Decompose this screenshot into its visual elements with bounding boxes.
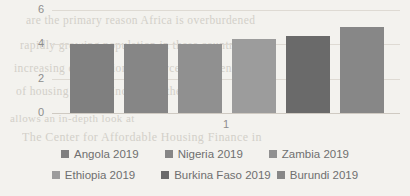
legend-label: Angola 2019 [74, 148, 139, 160]
bar-series-group [52, 10, 400, 113]
bar-chart: 0246 1 Angola 2019Nigeria 2019Zambia 201… [0, 0, 410, 196]
legend-label: Zambia 2019 [282, 148, 349, 160]
legend-item[interactable]: Nigeria 2019 [165, 148, 243, 160]
bar[interactable] [70, 44, 114, 113]
bar[interactable] [340, 27, 384, 113]
y-axis-tick-label: 2 [0, 72, 44, 84]
legend-label: Burundi 2019 [290, 169, 358, 181]
legend-item[interactable]: Ethiopia 2019 [52, 169, 135, 181]
chart-legend: Angola 2019Nigeria 2019Zambia 2019 Ethio… [0, 148, 410, 181]
y-axis-tick-label: 6 [0, 3, 44, 15]
legend-label: Ethiopia 2019 [65, 169, 135, 181]
y-axis-tick-label: 0 [0, 106, 44, 118]
legend-item[interactable]: Zambia 2019 [269, 148, 349, 160]
legend-label: Nigeria 2019 [178, 148, 243, 160]
y-axis-tick-label: 4 [0, 37, 44, 49]
legend-row: Ethiopia 2019Burkina Faso 2019Burundi 20… [52, 169, 358, 181]
bar[interactable] [232, 39, 276, 113]
bar[interactable] [178, 44, 222, 113]
legend-swatch-icon [269, 150, 277, 158]
legend-item[interactable]: Angola 2019 [61, 148, 139, 160]
legend-swatch-icon [161, 171, 169, 179]
legend-row: Angola 2019Nigeria 2019Zambia 2019 [61, 148, 349, 160]
legend-item[interactable]: Burkina Faso 2019 [161, 169, 271, 181]
legend-swatch-icon [52, 171, 60, 179]
bar[interactable] [286, 36, 330, 113]
x-axis-tick-label: 1 [52, 118, 400, 130]
legend-swatch-icon [61, 150, 69, 158]
x-axis-line [52, 113, 400, 114]
legend-label: Burkina Faso 2019 [174, 169, 271, 181]
legend-swatch-icon [165, 150, 173, 158]
legend-swatch-icon [277, 171, 285, 179]
plot-area: 0246 [52, 10, 400, 113]
legend-item[interactable]: Burundi 2019 [277, 169, 358, 181]
bar[interactable] [124, 44, 168, 113]
